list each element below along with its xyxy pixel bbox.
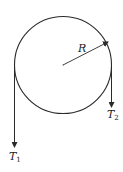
radius-label: R bbox=[77, 42, 86, 55]
tension-left-subscript: 1 bbox=[16, 156, 20, 164]
tension-right-subscript: 2 bbox=[114, 114, 118, 122]
tension-left-label: T1 bbox=[9, 150, 21, 164]
pulley-diagram: R T1 T2 bbox=[0, 0, 123, 172]
tension-right-label: T2 bbox=[107, 108, 119, 122]
